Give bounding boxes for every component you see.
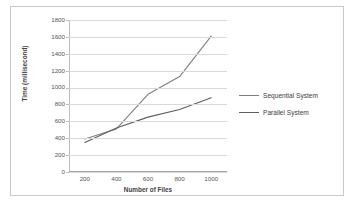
legend-item-label: Parallel System <box>263 109 309 116</box>
y-axis-tick-label: 1000 <box>51 84 65 90</box>
chart-frame: 020040060080010001200140016001800 200400… <box>10 6 344 196</box>
gridline <box>69 71 227 72</box>
gridline <box>69 121 227 122</box>
y-axis-title: Time (millisecond) <box>21 29 28 119</box>
y-axis-tick-label: 600 <box>55 118 65 124</box>
y-axis-tick-mark <box>66 71 69 72</box>
legend-line-icon <box>239 95 259 96</box>
y-axis-tick-label: 1400 <box>51 51 65 57</box>
y-axis-tick-mark <box>66 121 69 122</box>
y-axis-tick-mark <box>66 155 69 156</box>
y-axis-tick-label: 1800 <box>51 17 65 23</box>
y-axis-tick-mark <box>66 104 69 105</box>
gridline <box>69 20 227 21</box>
x-axis-tick-label: 400 <box>111 176 121 182</box>
legend-item-sequential-system[interactable]: Sequential System <box>239 91 343 100</box>
line-chart: 020040060080010001200140016001800 200400… <box>11 7 345 197</box>
gridline <box>69 88 227 89</box>
legend-item-label: Sequential System <box>263 92 318 99</box>
x-axis-tick-label: 600 <box>143 176 153 182</box>
legend-item-parallel-system[interactable]: Parallel System <box>239 108 343 117</box>
x-axis-tick-labels: 2004006008001000 <box>69 172 227 186</box>
y-axis-tick-label: 1600 <box>51 34 65 40</box>
plot-area <box>69 20 227 172</box>
x-axis-tick-label: 800 <box>174 176 184 182</box>
x-axis-title: Number of Files <box>69 186 227 193</box>
x-axis-tick-label: 1000 <box>204 176 218 182</box>
chart-legend: Sequential System Parallel System <box>239 91 343 125</box>
y-axis-tick-mark <box>66 20 69 21</box>
y-axis-tick-label: 200 <box>55 152 65 158</box>
gridline <box>69 155 227 156</box>
x-axis-tick-label: 200 <box>80 176 90 182</box>
gridline <box>69 54 227 55</box>
y-axis-tick-label: 1200 <box>51 68 65 74</box>
y-axis-tick-mark <box>66 138 69 139</box>
y-axis-tick-labels: 020040060080010001200140016001800 <box>31 20 65 172</box>
y-axis-tick-label: 400 <box>55 135 65 141</box>
y-axis-tick-label: 800 <box>55 101 65 107</box>
y-axis-tick-mark <box>66 54 69 55</box>
y-axis-line <box>69 20 70 172</box>
y-axis-tick-mark <box>66 88 69 89</box>
series-lines <box>69 20 227 172</box>
gridline <box>69 138 227 139</box>
gridline <box>69 37 227 38</box>
y-axis-tick-mark <box>66 37 69 38</box>
y-axis-tick-label: 0 <box>62 169 65 175</box>
legend-line-icon <box>239 112 259 113</box>
gridline <box>69 104 227 105</box>
